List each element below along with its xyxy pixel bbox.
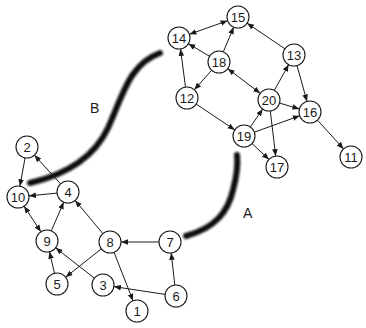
- node-label: 12: [180, 91, 194, 106]
- node-3: 3: [92, 274, 114, 296]
- node-16: 16: [299, 101, 321, 123]
- node-10: 10: [7, 186, 29, 208]
- edge-8-5: [66, 249, 102, 277]
- node-label: 2: [23, 140, 30, 155]
- edge-18-20: [228, 69, 260, 94]
- node-5: 5: [46, 273, 68, 295]
- node-15: 15: [227, 6, 249, 28]
- node-label: 16: [303, 105, 317, 120]
- node-label: 14: [172, 31, 186, 46]
- edge-8-4: [75, 200, 103, 233]
- edge-19-17: [252, 144, 269, 160]
- edge-18-12: [194, 70, 211, 90]
- edge-9-4: [51, 202, 63, 231]
- edge-19-16: [254, 116, 299, 132]
- node-4: 4: [57, 181, 79, 203]
- node-label: 10: [11, 190, 25, 205]
- node-label: 15: [231, 10, 245, 25]
- node-14: 14: [168, 27, 190, 49]
- node-18: 18: [208, 51, 230, 73]
- edge-20-13: [274, 65, 288, 91]
- edge-12-14: [181, 49, 186, 87]
- edge-19-20: [250, 109, 262, 127]
- node-12: 12: [176, 87, 198, 109]
- node-19: 19: [233, 125, 255, 147]
- edge-14-15: [189, 21, 227, 35]
- graph-canvas: 1234567891011121314151617181920 AB: [0, 0, 366, 328]
- node-17: 17: [266, 156, 288, 178]
- node-label: 3: [99, 278, 106, 293]
- edge-13-16: [297, 66, 307, 102]
- node-label: 20: [262, 93, 276, 108]
- node-label: 8: [106, 235, 113, 250]
- cut-stroke-b: [30, 53, 160, 183]
- edge-6-3: [114, 287, 165, 295]
- node-label: 7: [166, 235, 173, 250]
- node-6: 6: [165, 285, 187, 307]
- cut-label-b: B: [90, 100, 99, 116]
- node-label: 11: [344, 150, 358, 165]
- edge-5-9: [50, 252, 55, 274]
- edge-8-1: [114, 252, 133, 301]
- node-label: 18: [212, 55, 226, 70]
- node-2: 2: [16, 136, 38, 158]
- node-label: 6: [172, 289, 179, 304]
- edge-20-16: [280, 103, 300, 109]
- node-7: 7: [159, 231, 181, 253]
- cut-stroke-a: [186, 155, 237, 236]
- node-9: 9: [36, 230, 58, 252]
- edge-18-14: [188, 44, 209, 57]
- edge-2-10: [20, 158, 25, 186]
- node-11: 11: [340, 146, 362, 168]
- graph-diagram: 1234567891011121314151617181920 AB: [0, 0, 366, 328]
- node-label: 19: [237, 129, 251, 144]
- edge-13-15: [247, 23, 285, 49]
- node-label: 13: [287, 48, 301, 63]
- node-8: 8: [99, 231, 121, 253]
- node-1: 1: [126, 300, 148, 322]
- edge-16-11: [317, 120, 343, 149]
- cut-label-a: A: [243, 205, 253, 221]
- node-label: 4: [64, 185, 71, 200]
- node-label: 5: [53, 277, 60, 292]
- edge-10-9: [24, 206, 41, 232]
- edge-6-7: [171, 253, 175, 285]
- node-label: 1: [133, 304, 140, 319]
- edge-4-10: [29, 193, 57, 196]
- edge-12-19: [196, 104, 235, 130]
- edge-18-15: [223, 27, 233, 52]
- nodes: 1234567891011121314151617181920: [7, 6, 362, 322]
- edge-20-17: [270, 111, 275, 156]
- node-13: 13: [283, 44, 305, 66]
- node-20: 20: [258, 89, 280, 111]
- node-label: 17: [270, 160, 284, 175]
- node-label: 9: [43, 234, 50, 249]
